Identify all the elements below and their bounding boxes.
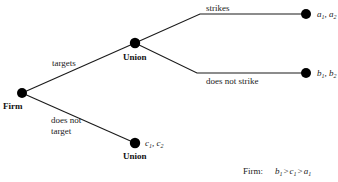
payoff-strike: a1, a2 (317, 9, 337, 20)
label-does-not: does not (51, 115, 82, 125)
label-does-not-strike: does not strike (206, 76, 259, 86)
game-tree: Firm Union Union targets does not target… (0, 0, 338, 182)
node-union-bottom (130, 138, 140, 148)
node-firm (17, 88, 27, 98)
label-union-bottom: Union (123, 151, 147, 161)
label-strikes: strikes (206, 3, 230, 13)
edge-targets (22, 43, 135, 93)
node-no-strike-terminal (301, 68, 311, 78)
label-targets: targets (52, 58, 76, 68)
payoff-no-strike: b1, b2 (317, 68, 337, 79)
node-strike-terminal (301, 9, 311, 19)
node-union-top (130, 38, 140, 48)
preference-player: Firm: (243, 166, 263, 176)
label-target: target (51, 126, 72, 136)
label-firm: Firm (3, 101, 23, 111)
preference-order: b1>c1>a1 (275, 166, 311, 177)
payoff-no-target: c1, c2 (145, 138, 164, 149)
label-union-top: Union (123, 52, 147, 62)
edge-strikes (135, 14, 305, 43)
edge-does-not-strike (135, 43, 305, 73)
